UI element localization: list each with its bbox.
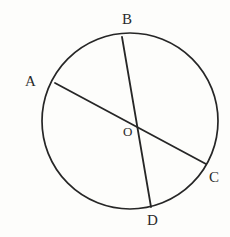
center-point-label-o: O: [123, 125, 132, 138]
point-label-c: C: [209, 170, 219, 185]
geometry-figure: [0, 0, 230, 237]
diagram-canvas: A B C D O: [0, 0, 230, 237]
point-label-b: B: [122, 12, 132, 27]
point-label-d: D: [147, 213, 158, 228]
circle-outline: [42, 33, 218, 209]
point-label-a: A: [25, 74, 36, 89]
